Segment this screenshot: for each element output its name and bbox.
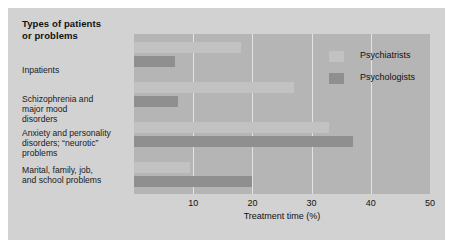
category-axis-heading-line-0: Types of patients xyxy=(22,18,172,30)
x-axis-label: Treatment time (%) xyxy=(134,211,430,221)
x-tick-label-30: 30 xyxy=(299,198,325,208)
category-label-line: problems xyxy=(22,148,144,158)
category-label-line: major mood xyxy=(22,104,144,114)
bar-psychologists-3 xyxy=(134,176,252,187)
category-label-line: and school problems xyxy=(22,175,144,185)
gridline-10 xyxy=(193,34,194,194)
legend-swatch-psychologists xyxy=(329,73,344,84)
bar-psychiatrists-0 xyxy=(134,42,241,53)
category-label-line: disorders xyxy=(22,114,144,124)
legend-swatch-psychiatrists xyxy=(329,51,344,62)
legend-label-psychologists: Psychologists xyxy=(360,72,415,82)
bar-psychiatrists-1 xyxy=(134,82,294,93)
category-label-line: Anxiety and personality xyxy=(22,128,144,138)
x-tick-label-40: 40 xyxy=(358,198,384,208)
x-tick-label-10: 10 xyxy=(180,198,206,208)
category-label-marital: Marital, family, job,and school problems xyxy=(22,165,144,185)
category-label-schizophrenia: Schizophrenia andmajor mooddisorders xyxy=(22,94,144,125)
bar-psychiatrists-2 xyxy=(134,122,329,133)
category-label-line: disorders; “neurotic” xyxy=(22,138,144,148)
gridline-30 xyxy=(312,34,313,194)
category-label-line: Marital, family, job, xyxy=(22,165,144,175)
bar-psychologists-0 xyxy=(134,56,175,67)
category-label-line: Schizophrenia and xyxy=(22,94,144,104)
x-tick-label-50: 50 xyxy=(417,198,443,208)
gridline-20 xyxy=(252,34,253,194)
x-tick-label-20: 20 xyxy=(239,198,265,208)
category-label-line: Inpatients xyxy=(22,65,144,75)
legend-label-psychiatrists: Psychiatrists xyxy=(360,50,411,60)
chart-figure: Types of patientsor problems Inpatients … xyxy=(8,8,445,240)
bar-psychologists-1 xyxy=(134,96,178,107)
category-label-inpatients: Inpatients xyxy=(22,65,144,75)
bar-psychologists-2 xyxy=(134,136,353,147)
bar-psychiatrists-3 xyxy=(134,162,190,173)
category-label-anxiety: Anxiety and personalitydisorders; “neuro… xyxy=(22,128,144,159)
